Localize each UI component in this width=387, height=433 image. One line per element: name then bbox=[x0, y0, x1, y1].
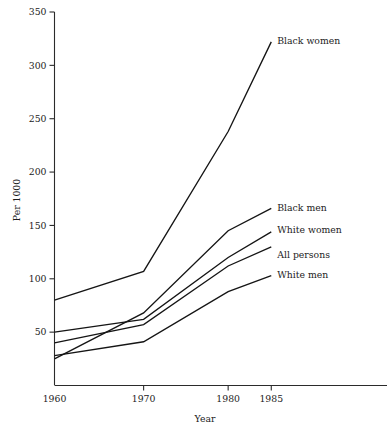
chart-canvas: 50100150200250300350 Per 1000 1960197019… bbox=[0, 0, 387, 433]
series-label: All persons bbox=[276, 249, 330, 260]
series-label: White women bbox=[277, 224, 342, 235]
y-tick-label-group: 50100150200250300350 bbox=[29, 6, 47, 337]
x-tick-label: 1960 bbox=[43, 393, 67, 404]
y-tick-label: 200 bbox=[29, 166, 47, 177]
y-tick-label: 150 bbox=[29, 220, 47, 231]
x-tick-label: 1985 bbox=[259, 393, 283, 404]
y-tick-label: 250 bbox=[29, 113, 47, 124]
line-chart: 50100150200250300350 Per 1000 1960197019… bbox=[0, 0, 387, 433]
x-tick-group bbox=[144, 386, 272, 391]
y-tick-label: 350 bbox=[29, 6, 47, 17]
x-axis-title: Year bbox=[194, 413, 216, 424]
x-axis: 1960197019801985 Year bbox=[43, 386, 387, 425]
y-tick-label: 300 bbox=[29, 60, 47, 71]
series-line bbox=[55, 276, 272, 356]
series-label: Black men bbox=[277, 202, 326, 213]
y-axis-title: Per 1000 bbox=[11, 179, 22, 221]
y-tick-label: 100 bbox=[29, 273, 47, 284]
series-line-group bbox=[55, 42, 272, 359]
x-tick-label: 1980 bbox=[216, 393, 240, 404]
y-tick-group bbox=[50, 12, 55, 332]
series-label: Black women bbox=[277, 35, 340, 46]
series-label: White men bbox=[277, 269, 328, 280]
y-axis: 50100150200250300350 Per 1000 bbox=[11, 6, 55, 385]
y-tick-label: 50 bbox=[35, 326, 47, 337]
series-label-group: Black womenBlack menWhite womenAll perso… bbox=[276, 35, 342, 280]
x-tick-label-group: 1960197019801985 bbox=[43, 393, 284, 404]
series-line bbox=[55, 232, 272, 332]
x-tick-label: 1970 bbox=[132, 393, 156, 404]
